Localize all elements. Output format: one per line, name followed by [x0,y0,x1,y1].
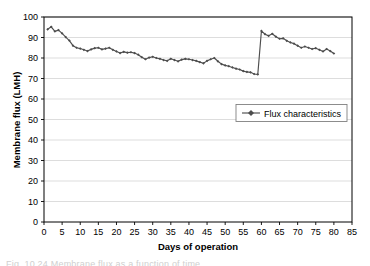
x-axis-title: Days of operation [158,241,238,252]
y-tick-label: 20 [28,176,38,186]
x-tick-label: 5 [60,227,65,237]
x-tick-label: 80 [329,227,339,237]
legend[interactable]: Flux characteristics [236,105,347,122]
y-tick-label: 90 [28,33,38,43]
x-tick-label: 0 [41,227,46,237]
flux-line-chart: 0102030405060708090100 05101520253035404… [0,0,370,266]
y-tick-label: 80 [28,53,38,63]
x-tick-label: 65 [275,227,285,237]
x-tick-label: 85 [347,227,357,237]
figure-container: 0102030405060708090100 05101520253035404… [0,0,370,266]
x-tick-label: 45 [202,227,212,237]
x-tick-label: 35 [166,227,176,237]
x-tick-label: 20 [111,227,121,237]
x-tick-label: 55 [238,227,248,237]
x-tick-label: 15 [93,227,103,237]
figure-caption: Fig. 10.24 Membrane flux as a function o… [6,259,200,266]
y-tick-label: 40 [28,135,38,145]
x-axis-tick-labels: 0510152025303540455055606570758085 [41,227,357,237]
x-tick-label: 40 [184,227,194,237]
y-tick-label: 70 [28,74,38,84]
x-tick-label: 10 [75,227,85,237]
y-axis-title: Membrane flux (LMH) [11,72,22,169]
y-tick-label: 30 [28,156,38,166]
legend-label-flux-characteristics: Flux characteristics [264,109,342,119]
y-tick-label: 0 [33,217,38,227]
y-axis-tick-labels: 0102030405060708090100 [23,12,38,227]
x-tick-label: 60 [256,227,266,237]
y-tick-label: 50 [28,115,38,125]
y-tick-label: 60 [28,94,38,104]
y-tick-label: 10 [28,197,38,207]
x-tick-label: 50 [220,227,230,237]
x-tick-label: 25 [130,227,140,237]
x-tick-label: 30 [148,227,158,237]
x-tick-label: 70 [293,227,303,237]
x-tick-label: 75 [311,227,321,237]
y-tick-label: 100 [23,12,38,22]
